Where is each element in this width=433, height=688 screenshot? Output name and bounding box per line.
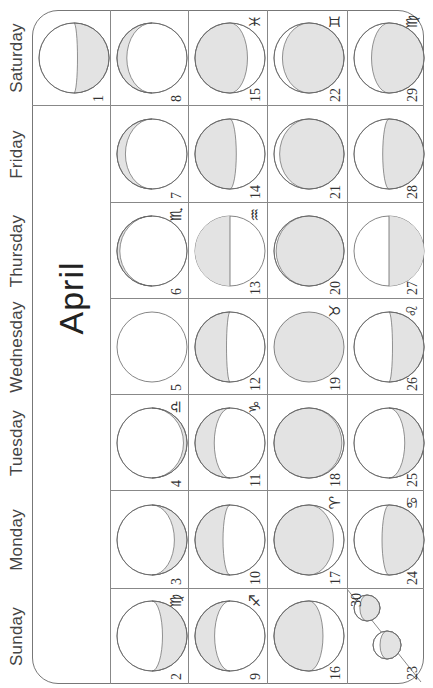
day-cell-3[interactable]: 3 — [110, 491, 188, 589]
day-number: 11 — [248, 474, 264, 487]
zodiac-icon: ♎ — [167, 400, 185, 413]
moon-28 — [353, 119, 429, 191]
zodiac-icon: ♍ — [167, 594, 185, 607]
day-number: 22 — [328, 88, 344, 102]
dow-monday: Monday — [2, 491, 32, 589]
moon-phase-icon — [353, 311, 425, 383]
day-number: 15 — [248, 88, 264, 102]
moon-12 — [194, 311, 270, 383]
moon-16 — [273, 601, 349, 673]
day-cell-28[interactable]: 28 — [347, 106, 424, 203]
moon-phase-icon — [116, 601, 188, 673]
moon-phase-icon — [194, 311, 266, 383]
day-cell-4[interactable]: 4♎ — [110, 395, 188, 491]
dow-sunday: Sunday — [2, 589, 32, 684]
moon-1 — [38, 22, 114, 94]
moon-phase-icon — [273, 601, 345, 673]
day-cell-10[interactable]: 10 — [188, 491, 267, 589]
zodiac-icon: ♉ — [326, 304, 344, 317]
day-cell-1[interactable]: 1 — [32, 10, 110, 106]
day-cell-16[interactable]: 16 — [267, 589, 347, 684]
day-number: 4 — [169, 480, 185, 487]
moon-7 — [116, 119, 192, 191]
day-cell-20[interactable]: 20 — [267, 203, 347, 299]
moon-phase-icon — [116, 311, 188, 383]
day-cell-27[interactable]: 27 — [347, 203, 424, 299]
day-number: 5 — [169, 384, 185, 391]
moon-phase-icon — [273, 22, 345, 94]
moon-phase-icon — [273, 311, 345, 383]
moon-21 — [273, 119, 349, 191]
day-number: 24 — [405, 571, 421, 585]
moon-phase-icon — [116, 407, 188, 479]
moon-phase-icon — [116, 22, 188, 94]
day-number: 3 — [169, 578, 185, 585]
moon-8 — [116, 22, 192, 94]
day-cell-7[interactable]: 7 — [110, 106, 188, 203]
moon-phase-icon — [273, 407, 345, 479]
moon-phase-icon — [273, 215, 345, 287]
day-cell-12[interactable]: 12 — [188, 299, 267, 395]
day-number: 2 — [169, 673, 185, 680]
day-cell-2[interactable]: 2♍ — [110, 589, 188, 684]
day-cell-26[interactable]: 26♌ — [347, 299, 424, 395]
moon-phase-icon — [194, 215, 266, 287]
moon-9 — [194, 601, 270, 673]
zodiac-icon: ♌ — [403, 304, 421, 317]
moon-phase-icon — [353, 504, 425, 576]
day-number: 10 — [248, 571, 264, 585]
day-number: 23 — [405, 666, 421, 680]
day-cell-21[interactable]: 21 — [267, 106, 347, 203]
moon-phase-icon — [194, 22, 266, 94]
moon-phase-icon — [38, 22, 110, 94]
zodiac-icon: ♋ — [403, 496, 421, 509]
day-number: 17 — [328, 571, 344, 585]
zodiac-icon: ♊ — [326, 15, 344, 28]
day-cell-18[interactable]: 18 — [267, 395, 347, 491]
moon-19 — [273, 311, 349, 383]
day-number: 28 — [405, 185, 421, 199]
day-cell-24[interactable]: 24♋ — [347, 491, 424, 589]
day-number: 20 — [328, 281, 344, 295]
zodiac-icon: ♏ — [167, 208, 185, 221]
day-number: 30 — [349, 593, 365, 607]
day-cell-29[interactable]: 29♍ — [347, 10, 424, 106]
moon-phase-icon — [116, 215, 188, 287]
day-cell-15[interactable]: 15♓ — [188, 10, 267, 106]
moon-3 — [116, 504, 192, 576]
day-number: 12 — [248, 377, 264, 391]
dow-saturday: Saturday — [2, 10, 32, 106]
moon-17 — [273, 504, 349, 576]
moon-10 — [194, 504, 270, 576]
day-number: 6 — [169, 288, 185, 295]
day-number: 1 — [91, 95, 107, 102]
moon-29 — [353, 22, 429, 94]
day-cell-13[interactable]: 13♒ — [188, 203, 267, 299]
moon-5 — [116, 311, 192, 383]
moon-18 — [273, 407, 349, 479]
moon-20 — [273, 215, 349, 287]
zodiac-icon: ♑ — [246, 400, 264, 413]
zodiac-icon: ♈ — [326, 496, 344, 509]
moon-15 — [194, 22, 270, 94]
day-cell-14[interactable]: 14 — [188, 106, 267, 203]
dow-tuesday: Tuesday — [2, 395, 32, 491]
day-cell-11[interactable]: 11♑ — [188, 395, 267, 491]
day-cell-17[interactable]: 17♈ — [267, 491, 347, 589]
dow-thursday: Thursday — [2, 203, 32, 299]
day-number: 16 — [328, 666, 344, 680]
day-number: 21 — [328, 185, 344, 199]
day-cell-19[interactable]: 19♉ — [267, 299, 347, 395]
moon-phase-icon — [273, 119, 345, 191]
day-cell-8[interactable]: 8 — [110, 10, 188, 106]
moon-phase-icon — [194, 119, 266, 191]
dow-friday: Friday — [2, 106, 32, 203]
dow-wednesday: Wednesday — [2, 299, 32, 395]
zodiac-icon: ♐ — [246, 594, 264, 607]
day-cell-23[interactable]: 2330 — [347, 589, 424, 684]
day-cell-9[interactable]: 9♐ — [188, 589, 267, 684]
day-cell-22[interactable]: 22♊ — [267, 10, 347, 106]
day-cell-25[interactable]: 25 — [347, 395, 424, 491]
day-cell-5[interactable]: 5 — [110, 299, 188, 395]
day-cell-6[interactable]: 6♏ — [110, 203, 188, 299]
